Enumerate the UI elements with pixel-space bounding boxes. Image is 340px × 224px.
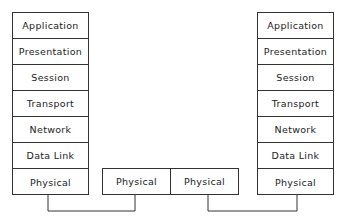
right-layer-transport: Transport: [258, 91, 333, 117]
right-layer-physical: Physical: [258, 169, 333, 195]
left-osi-stack: Application Presentation Session Transpo…: [12, 12, 89, 195]
right-layer-session: Session: [258, 65, 333, 91]
right-layer-application: Application: [258, 13, 333, 39]
right-layer-data-link: Data Link: [258, 143, 333, 169]
intermediate-node: Physical Physical: [102, 168, 239, 195]
left-layer-data-link: Data Link: [13, 143, 88, 169]
left-layer-session: Session: [13, 65, 88, 91]
right-layer-network: Network: [258, 117, 333, 143]
mid-physical-2: Physical: [171, 169, 238, 194]
left-layer-transport: Transport: [13, 91, 88, 117]
left-layer-network: Network: [13, 117, 88, 143]
right-layer-presentation: Presentation: [258, 39, 333, 65]
right-osi-stack: Application Presentation Session Transpo…: [257, 12, 334, 195]
left-layer-application: Application: [13, 13, 88, 39]
left-layer-presentation: Presentation: [13, 39, 88, 65]
mid-physical-1: Physical: [103, 169, 171, 194]
left-layer-physical: Physical: [13, 169, 88, 195]
